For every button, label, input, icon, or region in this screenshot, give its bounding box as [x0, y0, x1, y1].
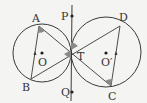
label-b: B	[22, 81, 30, 94]
label-q: Q	[61, 86, 70, 99]
label-c: C	[108, 90, 116, 103]
point-q	[70, 90, 73, 93]
point-o-prime	[104, 51, 107, 54]
point-p	[70, 14, 73, 17]
angle-marker-a	[38, 26, 45, 33]
angle-marker-c	[105, 79, 112, 86]
arrow-mark-ab	[34, 51, 37, 55]
label-a: A	[31, 12, 41, 25]
label-o: O	[38, 56, 47, 69]
diagram-canvas: A B C D T P Q O O′	[0, 0, 147, 103]
label-p: P	[61, 10, 69, 23]
label-o-prime: O′	[101, 56, 113, 69]
point-o	[40, 51, 43, 54]
angle-marker-t-upper	[71, 42, 78, 50]
label-d: D	[119, 11, 128, 24]
arrow-mark-dc	[115, 51, 118, 55]
label-t: T	[77, 50, 85, 63]
geometry-figure: A B C D T P Q O O′	[0, 0, 147, 103]
